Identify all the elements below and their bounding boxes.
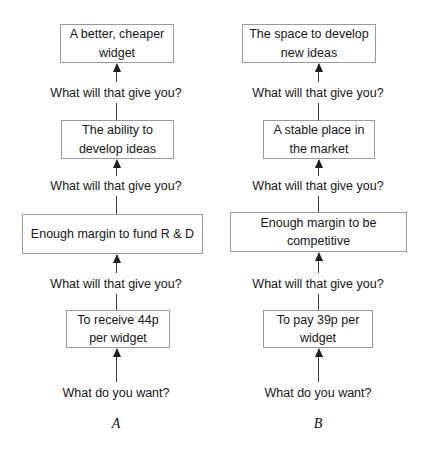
- question-a-1-label: What will that give you?: [50, 86, 181, 100]
- stem-a-2: [116, 196, 117, 214]
- question-b-4-label: What do you want?: [264, 386, 371, 400]
- arrow-b-4: [318, 349, 319, 382]
- arrow-a-4: [116, 349, 117, 382]
- question-b-1: What will that give you?: [218, 86, 418, 101]
- stem-a-1: [116, 103, 117, 120]
- question-a-4-label: What do you want?: [62, 386, 169, 400]
- arrow-b-1: [318, 64, 319, 82]
- question-a-2-label: What will that give you?: [50, 179, 181, 193]
- question-a-2: What will that give you?: [16, 179, 216, 194]
- node-a-1-label: A better, cheaper widget: [67, 25, 167, 61]
- node-b-1: The space to develop new ideas: [242, 24, 376, 63]
- arrow-a-1: [116, 64, 117, 82]
- stem-b-1: [318, 103, 319, 120]
- question-b-4: What do you want?: [218, 386, 418, 401]
- node-a-3: Enough margin to fund R & D: [22, 214, 203, 254]
- arrow-a-2: [116, 160, 117, 176]
- question-a-3-label: What will that give you?: [50, 277, 181, 291]
- question-b-2-label: What will that give you?: [252, 179, 383, 193]
- question-a-4: What do you want?: [16, 386, 216, 401]
- stem-b-2: [318, 196, 319, 212]
- arrow-a-3: [116, 255, 117, 273]
- node-b-2: A stable place in the market: [263, 120, 375, 159]
- node-b-4: To pay 39p per widget: [263, 310, 373, 348]
- node-a-4: To receive 44p per widget: [66, 310, 170, 348]
- laddering-diagram: A better, cheaper widget What will that …: [0, 0, 431, 449]
- stem-a-3: [116, 294, 117, 310]
- node-a-2: The ability to develop ideas: [61, 120, 174, 159]
- caption-column-b-label: B: [314, 416, 323, 431]
- node-a-3-label: Enough margin to fund R & D: [31, 225, 194, 243]
- caption-column-a: A: [66, 416, 166, 432]
- question-b-3-label: What will that give you?: [252, 277, 383, 291]
- node-b-2-label: A stable place in the market: [270, 121, 368, 157]
- node-a-1: A better, cheaper widget: [60, 24, 174, 63]
- question-b-2: What will that give you?: [218, 179, 418, 194]
- caption-column-a-label: A: [112, 416, 121, 431]
- question-b-1-label: What will that give you?: [252, 86, 383, 100]
- stem-b-3: [318, 294, 319, 310]
- node-a-4-label: To receive 44p per widget: [73, 311, 163, 347]
- node-a-2-label: The ability to develop ideas: [68, 121, 167, 157]
- arrow-b-2: [318, 160, 319, 176]
- arrow-b-3: [318, 253, 319, 273]
- node-b-1-label: The space to develop new ideas: [249, 25, 369, 61]
- node-b-3: Enough margin to be competitive: [230, 212, 407, 252]
- node-b-3-label: Enough margin to be competitive: [237, 214, 400, 250]
- node-b-4-label: To pay 39p per widget: [270, 311, 366, 347]
- question-a-3: What will that give you?: [16, 277, 216, 292]
- question-b-3: What will that give you?: [218, 277, 418, 292]
- question-a-1: What will that give you?: [16, 86, 216, 101]
- caption-column-b: B: [268, 416, 368, 432]
